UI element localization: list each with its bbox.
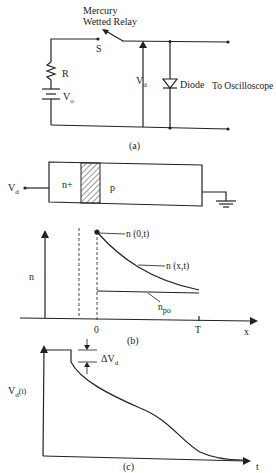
- n-curve-leader: [138, 265, 165, 266]
- top-right-wire: [122, 41, 228, 42]
- n-zero-leader: [99, 233, 125, 234]
- scope-terminal-top: [226, 40, 229, 43]
- delta-vd-label: ΔVd: [101, 353, 119, 367]
- relay-label-line2: Wetted Relay: [83, 16, 137, 27]
- n-plus-label: n+: [62, 179, 73, 190]
- n-axis-label: n: [29, 271, 34, 282]
- voltage-transient-chart: ΔVd Vd(t) t (c): [8, 339, 259, 473]
- caption-b: (b): [127, 335, 139, 347]
- vd-arrow-icon: [139, 41, 147, 48]
- switch-contact-dot: [96, 37, 99, 40]
- device-terminal-label: Vd: [8, 182, 19, 196]
- t-axis-arrow-icon: [243, 457, 251, 465]
- relay-label-line1: Mercury: [83, 5, 117, 16]
- t-axis-label: t: [256, 461, 259, 472]
- diode-recovery-figure: Mercury Wetted Relay S R Vo Vd Dio: [0, 0, 276, 473]
- diode-bottom-node: [168, 126, 171, 129]
- delta-arrow-down-icon: [84, 345, 90, 350]
- vd-label: Vd: [136, 75, 147, 89]
- x-tick-zero: 0: [94, 325, 99, 335]
- n-zero-point: [94, 229, 99, 234]
- vd-axis-arrow-icon: [40, 345, 48, 353]
- source-label: Vo: [63, 91, 74, 105]
- n-zero-label: n (0,t): [126, 229, 149, 240]
- circuit-diagram: Mercury Wetted Relay S R Vo Vd Dio: [42, 5, 273, 152]
- npo-line: [97, 291, 199, 293]
- ground-lead: [202, 192, 226, 201]
- diode-icon: [163, 79, 177, 88]
- x-tick-t: T: [195, 325, 201, 335]
- x-axis-label: x: [244, 326, 249, 337]
- caption-a: (a): [129, 140, 140, 152]
- resistor-icon: [47, 62, 55, 80]
- diode-label: Diode: [180, 79, 205, 90]
- switch-label: S: [96, 43, 102, 54]
- npo-leader: [148, 293, 160, 302]
- bottom-wire: [51, 125, 228, 129]
- x-axis-arrow-icon: [250, 317, 258, 325]
- top-left-wire: [51, 39, 98, 62]
- device-diagram: Vd n+ p n n (0,t) n (x,t) npo 0 T x: [8, 162, 258, 347]
- scope-terminal-bottom: [226, 127, 229, 130]
- vd-curve: [45, 350, 243, 460]
- resistor-label: R: [62, 68, 69, 79]
- x-axis: [20, 318, 252, 321]
- depletion-region: [81, 163, 100, 203]
- npo-label: npo: [158, 302, 171, 315]
- caption-c: (c): [123, 461, 134, 473]
- p-label: p: [110, 182, 115, 193]
- vd-axis: [43, 350, 44, 456]
- n-curve-label: n (x,t): [166, 261, 189, 272]
- delta-arrow-up-icon: [84, 362, 90, 367]
- n-axis-arrow-icon: [41, 230, 49, 238]
- scope-label: To Oscilloscope: [212, 81, 273, 91]
- vd-axis-label: Vd(t): [8, 385, 27, 399]
